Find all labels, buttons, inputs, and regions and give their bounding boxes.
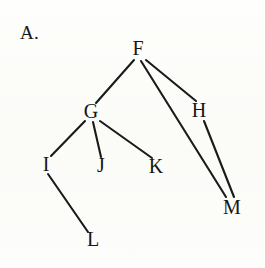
graph-edge-g-j	[93, 122, 101, 157]
graph-node-h: H	[187, 100, 211, 120]
graph-edge-f-g	[96, 60, 134, 103]
graph-figure: A. FGHIJKLM	[0, 0, 265, 268]
graph-node-m: M	[220, 197, 244, 217]
graph-node-f: F	[126, 38, 150, 58]
graph-node-k: K	[144, 156, 168, 176]
graph-node-j: J	[89, 155, 113, 175]
graph-node-i: I	[34, 154, 58, 174]
graph-node-l: L	[81, 229, 105, 249]
panel-label: A.	[20, 22, 39, 44]
graph-edge-i-l	[48, 174, 88, 232]
graph-edge-g-i	[51, 121, 85, 156]
graph-edge-g-k	[100, 121, 152, 158]
graph-node-g: G	[79, 101, 103, 121]
